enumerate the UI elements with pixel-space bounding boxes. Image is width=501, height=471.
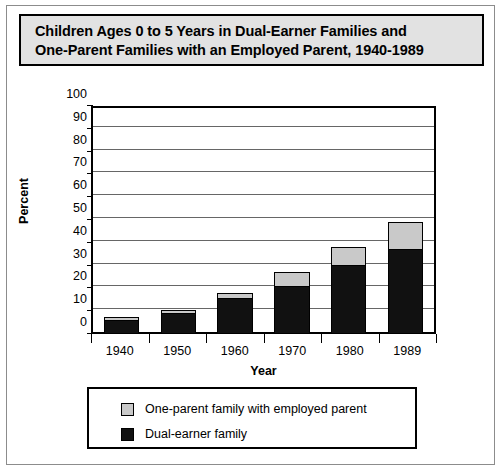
y-axis-tick-label: 30	[53, 248, 87, 260]
legend-item-dual-earner: Dual-earner family	[121, 423, 415, 445]
chart-title-banner: Children Ages 0 to 5 Years in Dual-Earne…	[19, 14, 484, 66]
x-axis-title: Year	[91, 364, 436, 378]
stacked-bar	[104, 317, 139, 334]
bar-segment-dual-earner	[105, 321, 138, 333]
y-axis-tick-label: 20	[53, 270, 87, 282]
bar-segment-one-parent	[275, 273, 308, 286]
x-axis-tick-mark	[91, 334, 92, 343]
bar-slot	[263, 106, 320, 334]
x-axis-tick-mark	[436, 334, 437, 343]
bar-segment-dual-earner	[389, 250, 422, 333]
x-axis-tick-label: 1950	[149, 344, 207, 358]
y-axis-tick-labels: 0102030405060708090100	[47, 106, 87, 334]
y-axis-tick-label: 40	[53, 225, 87, 237]
y-axis-tick-label: 50	[53, 202, 87, 214]
bar-segment-dual-earner	[162, 314, 195, 333]
stacked-bar	[217, 293, 252, 334]
bar-segment-dual-earner	[218, 299, 251, 333]
x-axis-tick-label: 1980	[321, 344, 379, 358]
stacked-bar	[274, 272, 309, 334]
chart-title-line-1: Children Ages 0 to 5 Years in Dual-Earne…	[35, 22, 470, 41]
legend-swatch-one-parent-icon	[121, 403, 134, 416]
bar-segment-dual-earner	[275, 287, 308, 333]
y-axis-tick-label: 70	[53, 156, 87, 168]
bar-segment-one-parent	[332, 248, 365, 266]
x-axis-tick-mark	[149, 334, 150, 343]
legend-label-one-parent: One-parent family with employed parent	[145, 402, 367, 416]
bar-slot	[320, 106, 377, 334]
chart-title-line-2: One-Parent Families with an Employed Par…	[35, 41, 470, 60]
x-axis-tick-mark	[321, 334, 322, 343]
y-axis-tick-label: 100	[53, 88, 87, 100]
bar-slot	[377, 106, 434, 334]
x-axis-ticks	[91, 334, 436, 343]
bar-segment-dual-earner	[332, 266, 365, 333]
stacked-bar	[388, 222, 423, 334]
bar-slot	[207, 106, 264, 334]
chart-legend: One-parent family with employed parent D…	[87, 387, 417, 449]
x-axis-tick-mark	[206, 334, 207, 343]
bar-slot	[150, 106, 207, 334]
y-axis-tick-label: 60	[53, 179, 87, 191]
legend-swatch-dual-earner-icon	[121, 428, 134, 441]
legend-label-dual-earner: Dual-earner family	[145, 427, 247, 441]
bar-slot	[93, 106, 150, 334]
stacked-bar	[161, 310, 196, 334]
stacked-bar	[331, 247, 366, 334]
x-axis-tick-labels: 194019501960197019801989	[91, 344, 436, 358]
bars-group	[91, 106, 436, 334]
y-axis-tick-label: 80	[53, 134, 87, 146]
y-axis-tick-label: 10	[53, 293, 87, 305]
x-axis-tick-label: 1960	[206, 344, 264, 358]
y-axis-title: Percent	[17, 178, 31, 224]
bar-segment-one-parent	[389, 223, 422, 250]
x-axis-tick-label: 1940	[91, 344, 149, 358]
figure-container: Children Ages 0 to 5 Years in Dual-Earne…	[6, 5, 495, 465]
x-axis-tick-mark	[264, 334, 265, 343]
legend-item-one-parent: One-parent family with employed parent	[121, 398, 415, 420]
y-axis-tick-label: 0	[53, 316, 87, 328]
plot-outer: Percent 0102030405060708090100 194019501…	[19, 76, 484, 369]
x-axis-tick-label: 1970	[264, 344, 322, 358]
x-axis-tick-label: 1989	[379, 344, 437, 358]
x-axis-tick-mark	[379, 334, 380, 343]
y-axis-tick-label: 90	[53, 111, 87, 123]
